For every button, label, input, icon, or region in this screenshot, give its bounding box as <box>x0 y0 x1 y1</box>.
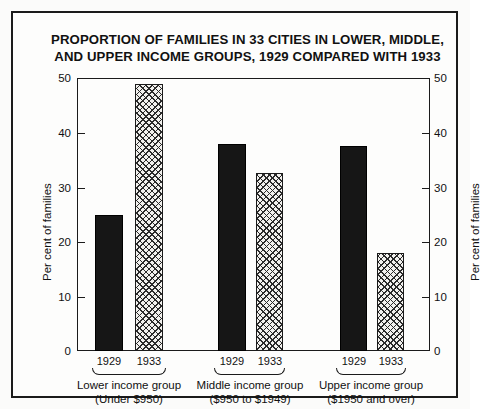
year-label-lower-1929: 1929 <box>87 355 131 367</box>
year-label-middle-1933: 1933 <box>248 355 292 367</box>
group-caption-lower-line-2: (Under $950) <box>69 392 189 406</box>
group-brace-upper <box>336 368 406 375</box>
year-label-lower-1933: 1933 <box>127 355 171 367</box>
group-caption-upper: Upper income group ($1950 and over) <box>311 378 431 406</box>
group-caption-lower-line-1: Lower income group <box>69 378 189 392</box>
bar-lower-1929 <box>95 215 123 352</box>
group-caption-middle-line-1: Middle income group <box>190 378 310 392</box>
group-caption-upper-line-2: ($1950 and over) <box>311 392 431 406</box>
bars-layer <box>13 78 456 351</box>
group-caption-lower: Lower income group (Under $950) <box>69 378 189 406</box>
bar-upper-1929 <box>340 146 367 351</box>
chart-title: PROPORTION OF FAMILIES IN 33 CITIES IN L… <box>29 31 466 65</box>
chart-title-line-2: AND UPPER INCOME GROUPS, 1929 COMPARED W… <box>29 48 466 65</box>
y-axis-title-right: Per cent of families <box>469 183 481 281</box>
group-brace-middle <box>214 368 285 375</box>
bar-middle-1929 <box>218 144 246 351</box>
bar-lower-1933 <box>135 84 163 352</box>
bar-upper-1933 <box>377 253 404 351</box>
chart-title-line-1: PROPORTION OF FAMILIES IN 33 CITIES IN L… <box>51 32 444 47</box>
group-brace-lower <box>92 368 166 375</box>
year-label-upper-1933: 1933 <box>369 355 413 367</box>
group-caption-middle: Middle income group ($950 to $1949) <box>190 378 310 406</box>
bar-middle-1933 <box>256 173 283 351</box>
group-caption-upper-line-1: Upper income group <box>311 378 431 392</box>
chart-outer-frame: PROPORTION OF FAMILIES IN 33 CITIES IN L… <box>11 11 458 398</box>
group-caption-middle-line-2: ($950 to $1949) <box>190 392 310 406</box>
